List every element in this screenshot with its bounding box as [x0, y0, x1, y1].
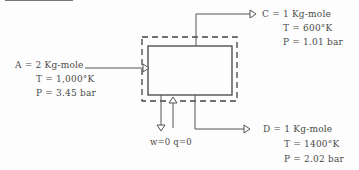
energy-label: w=0 q=0 — [150, 137, 192, 148]
stream-a-pressure: P = 3.45 bar — [36, 88, 96, 99]
work-arrow-icon — [157, 125, 165, 131]
heat-arrow-icon — [169, 97, 177, 103]
stream-a-temperature: T = 1,000°K — [36, 74, 94, 85]
stream-d-temperature: T = 1400°K — [284, 139, 339, 150]
stream-a-name: A = 2 Kg-mole — [15, 60, 84, 71]
stream-c-pressure: P = 1.01 bar — [283, 37, 343, 48]
flow-diagram: A = 2 Kg-mole T = 1,000°K P = 3.45 bar C… — [0, 0, 359, 170]
stream-c-name: C = 1 Kg-mole — [262, 9, 331, 20]
stream-d-arrow-icon — [244, 125, 250, 133]
stream-c-temperature: T = 600°K — [283, 23, 332, 34]
stream-c-line — [196, 14, 250, 46]
stream-d-pressure: P = 2.02 bar — [284, 154, 344, 165]
stream-c-arrow-icon — [250, 10, 256, 18]
process-unit-box — [148, 46, 232, 95]
stream-d-name: D = 1 Kg-mole — [263, 124, 332, 135]
stream-d-line — [195, 95, 244, 129]
